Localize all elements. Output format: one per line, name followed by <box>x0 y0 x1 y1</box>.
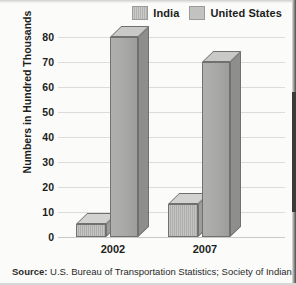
bar-united-states-2002 <box>110 37 138 237</box>
chart-screenshot: India United States Numbers in Hundred T… <box>0 0 296 285</box>
bar-front-face <box>168 204 198 237</box>
source-label: Source: <box>12 266 47 277</box>
bar-india-2007 <box>168 204 198 237</box>
y-tick-label-50: 50 <box>28 106 54 118</box>
y-tick-label-10: 10 <box>28 206 54 218</box>
gridline-0-baseline <box>58 237 285 238</box>
bar-united-states-2007 <box>202 62 230 237</box>
gridline-30 <box>58 162 285 163</box>
gridline-80 <box>58 37 285 38</box>
gridline-20 <box>58 187 285 188</box>
bar-front-face <box>202 62 230 237</box>
y-tick-label-40: 40 <box>28 131 54 143</box>
source-note: Source: U.S. Bureau of Transportation St… <box>12 266 292 277</box>
gridline-40 <box>58 137 285 138</box>
y-tick-label-70: 70 <box>28 56 54 68</box>
bar-india-2002 <box>76 224 106 237</box>
source-text: U.S. Bureau of Transportation Statistics… <box>50 266 292 277</box>
y-tick-label-20: 20 <box>28 181 54 193</box>
bar-front-face <box>76 224 106 237</box>
x-axis-label-2007: 2007 <box>175 243 235 255</box>
bar-side-face <box>230 51 241 237</box>
gridline-60 <box>58 87 285 88</box>
gridline-70 <box>58 62 285 63</box>
bar-side-face <box>138 26 149 237</box>
gridline-50 <box>58 112 285 113</box>
bar-front-face <box>110 37 138 237</box>
plot-area: Numbers in Hundred Thousands 80 70 60 50… <box>0 0 296 262</box>
y-tick-label-30: 30 <box>28 156 54 168</box>
x-axis-label-2002: 2002 <box>83 243 143 255</box>
y-tick-label-0: 0 <box>28 231 54 243</box>
y-tick-label-60: 60 <box>28 81 54 93</box>
y-tick-label-80: 80 <box>28 31 54 43</box>
